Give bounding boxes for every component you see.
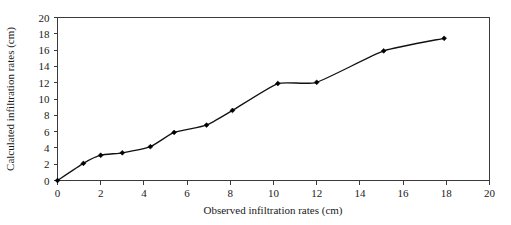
x-tick-label: 16 xyxy=(398,187,410,199)
y-tick-label: 16 xyxy=(39,44,51,56)
x-tick-label: 4 xyxy=(141,187,147,199)
x-tick-label: 2 xyxy=(98,187,104,199)
x-tick-label: 12 xyxy=(311,187,322,199)
x-tick-label: 0 xyxy=(55,187,61,199)
y-tick-label: 20 xyxy=(39,12,51,24)
x-axis-title: Observed infiltration rates (cm) xyxy=(204,204,343,217)
x-tick-label: 8 xyxy=(228,187,234,199)
x-tick-label: 18 xyxy=(441,187,453,199)
x-tick-label: 20 xyxy=(484,187,496,199)
y-tick-label: 8 xyxy=(44,109,50,121)
y-tick-label: 2 xyxy=(44,158,50,170)
y-tick-label: 10 xyxy=(39,93,51,105)
y-tick-label: 0 xyxy=(44,175,50,187)
infiltration-rates-chart-figure: 02468101214161820 02468101214161820 Obse… xyxy=(0,0,511,225)
x-tick-label: 10 xyxy=(268,187,280,199)
x-tick-label: 14 xyxy=(354,187,366,199)
y-tick-label: 18 xyxy=(39,28,51,40)
y-tick-label: 12 xyxy=(39,77,50,89)
y-axis-title: Calculated infiltration rates (cm) xyxy=(4,27,17,171)
y-tick-label: 14 xyxy=(39,60,51,72)
x-tick-label: 6 xyxy=(184,187,190,199)
y-tick-label: 4 xyxy=(44,142,50,154)
chart-background xyxy=(0,0,511,225)
y-tick-label: 6 xyxy=(44,126,50,138)
chart-canvas: 02468101214161820 02468101214161820 Obse… xyxy=(0,0,511,225)
